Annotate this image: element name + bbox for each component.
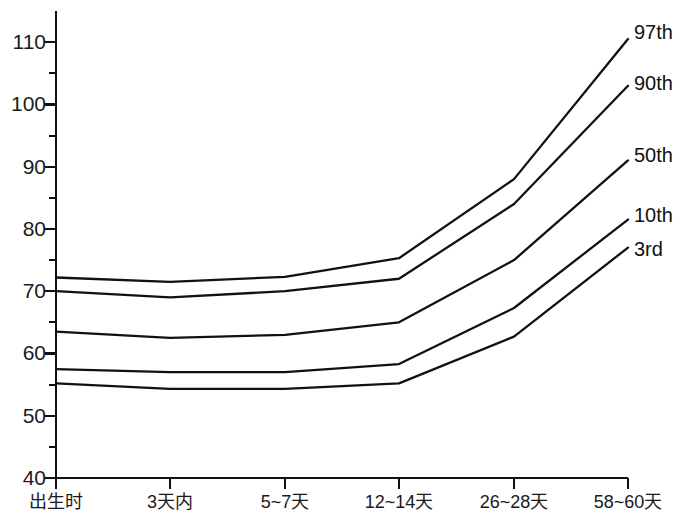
y-axis-tick-label: 70 [0, 280, 46, 301]
growth-percentile-chart: 110100908070605040 出生时3天内5~7天12~14天26~28… [0, 0, 683, 526]
x-axis-tick-label: 26~28天 [454, 493, 574, 511]
series-line-50th [56, 160, 628, 337]
series-label-90th: 90th [634, 73, 673, 93]
x-axis-tick-label: 3天内 [110, 493, 230, 511]
y-axis-tick-label: 110 [0, 31, 46, 52]
x-axis-tick-label: 5~7天 [225, 493, 345, 511]
series-line-97th [56, 39, 628, 282]
chart-series-lines [56, 39, 628, 389]
series-label-10th: 10th [634, 205, 673, 225]
series-label-97th: 97th [634, 22, 673, 42]
y-axis-tick-label: 90 [0, 156, 46, 177]
series-line-90th [56, 86, 628, 298]
y-axis-tick-label: 50 [0, 405, 46, 426]
chart-tick-marks [45, 42, 628, 489]
series-label-50th: 50th [634, 145, 673, 165]
x-axis-tick-label: 出生时 [0, 493, 116, 511]
chart-axes [56, 11, 628, 478]
chart-canvas [0, 0, 683, 526]
series-label-3rd: 3rd [634, 239, 663, 259]
y-axis-tick-label: 60 [0, 342, 46, 363]
y-axis-tick-label: 100 [0, 93, 46, 114]
y-axis-tick-label: 80 [0, 218, 46, 239]
y-axis-tick-label: 40 [0, 467, 46, 488]
x-axis-tick-label: 12~14天 [339, 493, 459, 511]
x-axis-tick-label: 58~60天 [568, 493, 683, 511]
